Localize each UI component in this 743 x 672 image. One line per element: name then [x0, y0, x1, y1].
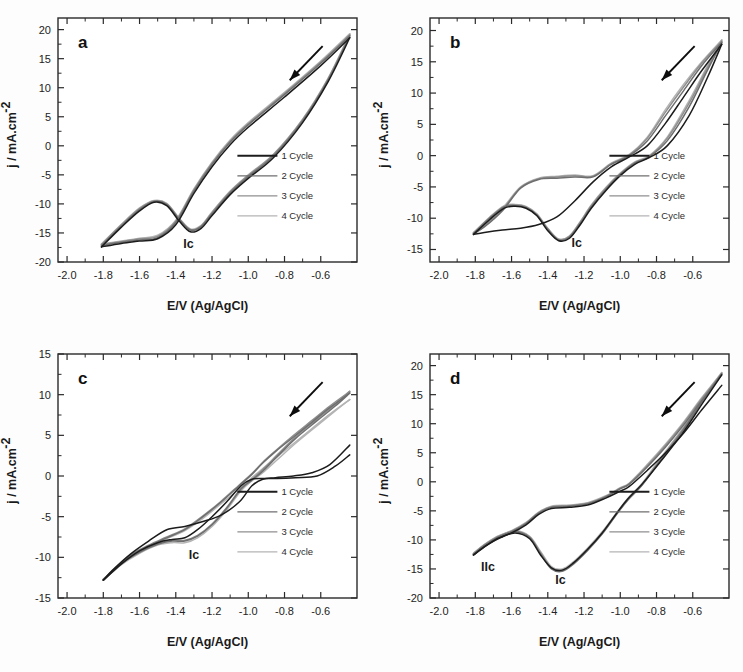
y-tick-label: -20 — [407, 592, 423, 604]
y-axis-title: j / mA.cm-2 — [372, 102, 391, 169]
x-tick-label: -1.4 — [538, 269, 557, 281]
y-tick-label: -20 — [35, 256, 51, 268]
panel-letter: a — [78, 33, 88, 52]
y-axis-title: j / mA.cm-2 — [0, 438, 19, 505]
y-tick-label: 0 — [417, 150, 423, 162]
x-tick-label: -0.6 — [311, 605, 330, 617]
y-axis-title-exponent: -2 — [0, 438, 13, 449]
y-tick-label: -10 — [35, 551, 51, 563]
x-tick-label: -1.4 — [166, 605, 185, 617]
legend-label-2: 2 Cycle — [281, 170, 313, 181]
y-tick-label: -15 — [35, 227, 51, 239]
y-axis-title: j / mA.cm-2 — [372, 438, 391, 505]
x-tick-label: -1.2 — [575, 269, 594, 281]
panel-c: -2.0-1.8-1.6-1.4-1.2-1.0-0.8-0.6151050-5… — [0, 336, 371, 672]
legend-label-3: 3 Cycle — [281, 190, 313, 201]
x-tick-label: -1.6 — [130, 269, 149, 281]
panel-letter: d — [450, 369, 460, 388]
legend-label-4: 4 Cycle — [653, 210, 685, 221]
y-tick-label: 5 — [45, 111, 51, 123]
y-tick-label: -15 — [407, 243, 423, 255]
x-tick-label: -1.0 — [611, 269, 630, 281]
y-tick-label: 5 — [417, 447, 423, 459]
x-tick-label: -0.6 — [311, 269, 330, 281]
x-tick-label: -2.0 — [430, 605, 449, 617]
x-tick-label: -1.8 — [94, 605, 113, 617]
plot-frame — [58, 354, 357, 598]
y-tick-label: 10 — [411, 418, 423, 430]
y-tick-label: 5 — [45, 429, 51, 441]
y-tick-label: 15 — [411, 56, 423, 68]
y-tick-label: -5 — [413, 505, 423, 517]
panel-d: -2.0-1.8-1.6-1.4-1.2-1.0-0.8-0.620151050… — [372, 336, 743, 672]
y-tick-label: -10 — [407, 212, 423, 224]
x-tick-label: -0.6 — [683, 605, 702, 617]
panel-a: -2.0-1.8-1.6-1.4-1.2-1.0-0.8-0.620151050… — [0, 0, 371, 336]
legend-label-3: 3 Cycle — [653, 190, 685, 201]
peak-label-Ic: Ic — [555, 573, 565, 587]
y-tick-label: -5 — [41, 169, 51, 181]
legend-label-1: 1 Cycle — [653, 150, 685, 161]
x-tick-label: -1.6 — [502, 269, 521, 281]
plot-frame — [58, 18, 357, 262]
x-tick-label: -2.0 — [430, 269, 449, 281]
legend-label-3: 3 Cycle — [281, 526, 313, 537]
peak-label-IIc: IIc — [481, 560, 495, 574]
legend-label-4: 4 Cycle — [281, 546, 313, 557]
panel-letter: c — [78, 369, 87, 388]
y-tick-label: 15 — [39, 348, 51, 360]
x-axis-title: E/V (Ag/AgCl) — [167, 635, 248, 649]
peak-label-Ic: Ic — [572, 236, 582, 250]
y-tick-label: 15 — [39, 53, 51, 65]
x-tick-label: -0.8 — [647, 269, 666, 281]
panel-b: -2.0-1.8-1.6-1.4-1.2-1.0-0.8-0.620151050… — [372, 0, 743, 336]
x-tick-label: -0.6 — [683, 269, 702, 281]
svg-text:j / mA.cm: j / mA.cm — [377, 112, 391, 169]
y-tick-label: 20 — [411, 25, 423, 37]
legend-label-4: 4 Cycle — [281, 210, 313, 221]
x-tick-label: -1.2 — [575, 605, 594, 617]
y-tick-label: 15 — [411, 389, 423, 401]
y-tick-label: -5 — [41, 511, 51, 523]
x-tick-label: -1.0 — [611, 605, 630, 617]
x-tick-label: -1.0 — [239, 605, 258, 617]
y-tick-label: 0 — [45, 470, 51, 482]
y-tick-label: -10 — [407, 534, 423, 546]
y-tick-label: 10 — [411, 87, 423, 99]
x-axis-title: E/V (Ag/AgCl) — [539, 635, 620, 649]
legend-label-1: 1 Cycle — [653, 486, 685, 497]
y-tick-label: 0 — [45, 140, 51, 152]
legend-label-2: 2 Cycle — [653, 170, 685, 181]
x-tick-label: -1.4 — [538, 605, 557, 617]
x-tick-label: -1.6 — [502, 605, 521, 617]
x-tick-label: -1.4 — [166, 269, 185, 281]
peak-label-Ic: Ic — [189, 548, 199, 562]
y-tick-label: 0 — [417, 476, 423, 488]
legend-label-1: 1 Cycle — [281, 486, 313, 497]
plot-frame — [430, 354, 729, 598]
x-tick-label: -1.8 — [94, 269, 113, 281]
x-tick-label: -2.0 — [58, 269, 77, 281]
y-tick-label: -5 — [413, 181, 423, 193]
panel-letter: b — [450, 33, 460, 52]
y-axis-title-exponent: -2 — [372, 102, 385, 113]
svg-text:j / mA.cm: j / mA.cm — [377, 448, 391, 505]
x-tick-label: -0.8 — [275, 605, 294, 617]
x-tick-label: -1.8 — [466, 605, 485, 617]
x-tick-label: -0.8 — [647, 605, 666, 617]
y-tick-label: 20 — [39, 24, 51, 36]
x-tick-label: -1.8 — [466, 269, 485, 281]
x-tick-label: -1.2 — [203, 269, 222, 281]
svg-text:j / mA.cm: j / mA.cm — [5, 448, 19, 505]
x-tick-label: -2.0 — [58, 605, 77, 617]
y-tick-label: -10 — [35, 198, 51, 210]
y-axis-title-exponent: -2 — [372, 438, 385, 449]
y-tick-label: 5 — [417, 118, 423, 130]
y-tick-label: 10 — [39, 82, 51, 94]
legend-label-3: 3 Cycle — [653, 526, 685, 537]
legend-label-1: 1 Cycle — [281, 150, 313, 161]
legend-label-4: 4 Cycle — [653, 546, 685, 557]
legend-label-2: 2 Cycle — [281, 506, 313, 517]
x-tick-label: -1.2 — [203, 605, 222, 617]
legend-label-2: 2 Cycle — [653, 506, 685, 517]
